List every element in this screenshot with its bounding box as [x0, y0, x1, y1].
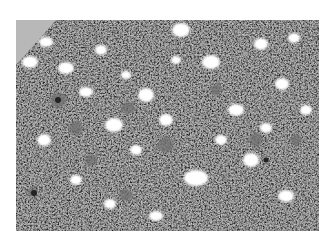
tissue-texture: [16, 20, 319, 231]
micrograph-image: grayscale histology micrograph of densel…: [16, 20, 319, 231]
